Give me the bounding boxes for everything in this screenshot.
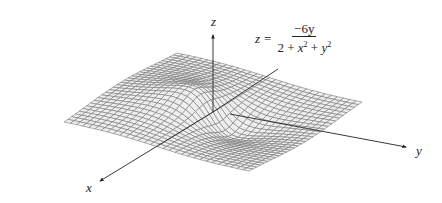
y-axis-label: y — [416, 143, 422, 159]
formula-lhs: z — [255, 31, 260, 47]
formula-numerator: −6y — [292, 22, 316, 37]
formula-equals: = — [264, 31, 271, 47]
x-axis-label: x — [86, 180, 92, 196]
formula-denominator: 2 + x2 + y2 — [275, 37, 333, 55]
function-formula: z = −6y 2 + x2 + y2 — [255, 22, 333, 55]
z-axis-label: z — [211, 14, 216, 30]
formula-fraction: −6y 2 + x2 + y2 — [275, 22, 333, 55]
surface-plot — [0, 0, 442, 203]
